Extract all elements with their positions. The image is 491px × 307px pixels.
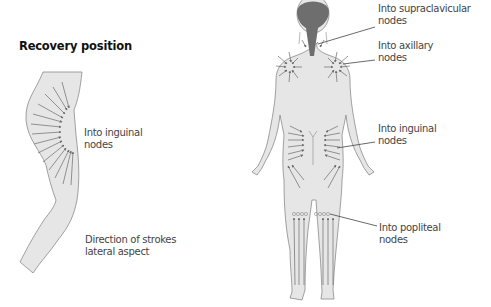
label-line: nodes xyxy=(378,15,471,27)
label-line: nodes xyxy=(378,135,436,147)
label-popliteal: Into popliteal nodes xyxy=(379,222,441,246)
label-line: Into inguinal xyxy=(378,123,436,135)
label-line: Into popliteal xyxy=(379,222,441,234)
label-line: Into inguinal xyxy=(84,127,142,139)
recovery-position-leg xyxy=(20,72,82,273)
label-line: nodes xyxy=(379,234,441,246)
label-axillary: Into axillary nodes xyxy=(378,40,433,64)
label-line: lateral aspect xyxy=(85,246,176,258)
hair xyxy=(297,2,329,57)
label-line: nodes xyxy=(378,52,433,64)
label-inguinal-posterior: Into inguinal nodes xyxy=(378,123,436,147)
label-line: Direction of strokes xyxy=(85,234,176,246)
label-supraclavicular: Into supraclavicular nodes xyxy=(378,3,471,27)
label-line: Into supraclavicular xyxy=(378,3,471,15)
label-line: nodes xyxy=(84,139,142,151)
figure-title: Recovery position xyxy=(19,39,132,53)
label-inguinal-side: Into inguinal nodes xyxy=(84,127,142,151)
posterior-body-figure xyxy=(252,0,377,300)
label-stroke-direction: Direction of strokes lateral aspect xyxy=(85,234,176,258)
label-line: Into axillary xyxy=(378,40,433,52)
